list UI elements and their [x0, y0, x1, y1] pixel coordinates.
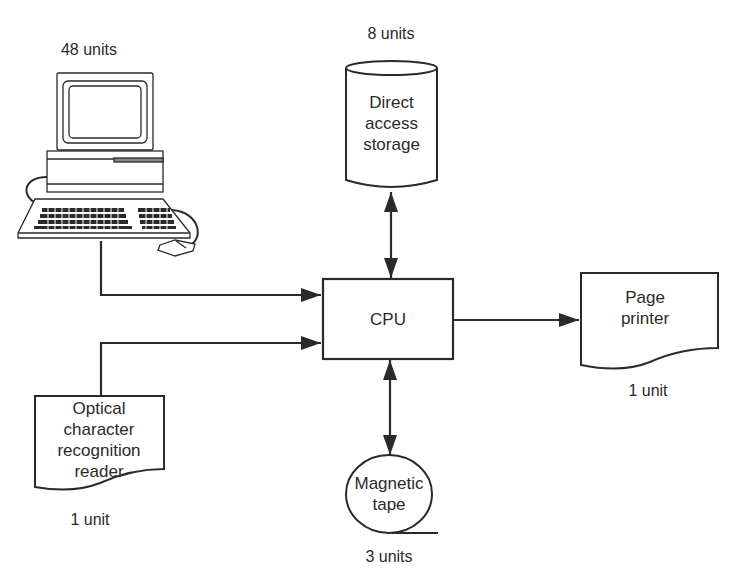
computer-terminal-icon — [18, 73, 198, 256]
cpu-label: CPU — [323, 309, 453, 330]
tape-label: Magnetic tape — [346, 473, 432, 515]
printer-count-label: 1 unit — [608, 381, 688, 401]
terminal-count-label: 48 units — [44, 40, 134, 60]
tape-count-label: 3 units — [346, 547, 432, 567]
storage-count-label: 8 units — [346, 24, 436, 44]
storage-label-line: access — [346, 113, 437, 134]
ocr-label: Optical character recognition reader — [35, 398, 163, 482]
storage-label-line: Direct — [346, 92, 437, 113]
ocr-label-line: Optical — [35, 398, 163, 419]
printer-label-line: printer — [600, 308, 690, 329]
ocr-to-cpu-arrow — [101, 343, 321, 396]
ocr-label-line: character — [35, 419, 163, 440]
ocr-count-label: 1 unit — [40, 510, 140, 530]
printer-label-line: Page — [600, 287, 690, 308]
ocr-label-line: recognition — [35, 440, 163, 461]
storage-label: Direct access storage — [346, 92, 437, 155]
storage-label-line: storage — [346, 134, 437, 155]
ocr-label-line: reader — [35, 461, 163, 482]
terminal-to-cpu-arrow — [101, 241, 321, 295]
tape-label-line: tape — [346, 494, 432, 515]
printer-label: Page printer — [600, 287, 690, 329]
tape-label-line: Magnetic — [346, 473, 432, 494]
